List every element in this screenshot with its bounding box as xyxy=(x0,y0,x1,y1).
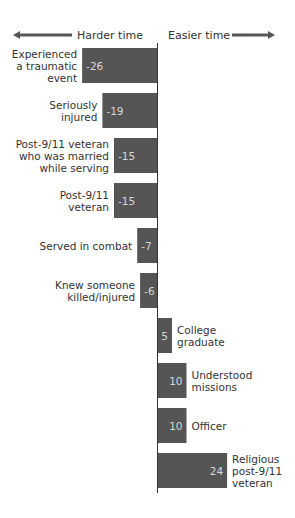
category-label-line: College xyxy=(177,324,216,336)
direction-header: Harder time Easier time xyxy=(13,29,275,42)
bar-group: 5Collegegraduate xyxy=(158,318,225,353)
category-label-line: veteran xyxy=(232,477,273,489)
category-label: Knew someonekilled/injured xyxy=(55,279,135,303)
bar-group: 10Understoodmissions xyxy=(158,363,253,398)
category-label: Collegegraduate xyxy=(177,324,225,348)
category-label-line: Understood xyxy=(192,369,253,381)
category-label-line: killed/injured xyxy=(67,291,135,303)
category-label: Religiouspost-9/11veteran xyxy=(232,453,282,489)
bar-value-label: 24 xyxy=(210,465,224,477)
bar-value-label: -19 xyxy=(106,105,123,117)
easier-time-label: Easier time xyxy=(168,29,230,42)
left-arrow-icon xyxy=(13,31,72,39)
category-label: Officer xyxy=(192,420,228,432)
category-label-line: missions xyxy=(192,381,238,393)
bar-value-label: -6 xyxy=(144,285,155,297)
category-label-line: Knew someone xyxy=(55,279,135,291)
bar-group: -15Post-9/11veteran xyxy=(60,183,158,218)
category-label: Served in combat xyxy=(40,240,133,252)
bar-group: 24Religiouspost-9/11veteran xyxy=(158,453,283,489)
harder-time-label: Harder time xyxy=(77,29,143,42)
bar-group: -7Served in combat xyxy=(40,228,158,263)
bar-value-label: -26 xyxy=(86,60,103,72)
category-label-line: Officer xyxy=(192,420,228,432)
right-arrow-icon xyxy=(232,31,275,39)
category-label: Post-9/11veteran xyxy=(60,189,109,213)
bar-value-label: 5 xyxy=(161,330,168,342)
bar-group: 10Officer xyxy=(158,408,228,443)
category-label-line: injured xyxy=(61,111,97,123)
bar-value-label: -15 xyxy=(118,150,135,162)
category-label-line: Religious xyxy=(232,453,279,465)
bar-value-label: 10 xyxy=(169,375,182,387)
category-label-line: a traumatic xyxy=(16,60,77,72)
category-label: Post-9/11 veteranwho was marriedwhile se… xyxy=(16,138,109,174)
category-label-line: Experienced xyxy=(12,48,77,60)
bar-group: -6Knew someonekilled/injured xyxy=(55,273,157,308)
category-label-line: event xyxy=(47,72,77,84)
bar-value-label: -7 xyxy=(141,240,151,252)
bars: -26Experienceda traumaticevent-19Serious… xyxy=(12,48,282,489)
category-label-line: Post-9/11 veteran xyxy=(16,138,109,150)
category-label-line: Seriously xyxy=(49,99,97,111)
bar-group: -26Experienceda traumaticevent xyxy=(12,48,158,84)
category-label-line: post-9/11 xyxy=(232,465,282,477)
category-label: Experienceda traumaticevent xyxy=(12,48,77,84)
category-label: Understoodmissions xyxy=(192,369,253,393)
category-label-line: while serving xyxy=(39,162,109,174)
category-label: Seriouslyinjured xyxy=(49,99,97,123)
bar-value-label: 10 xyxy=(169,420,182,432)
category-label-line: graduate xyxy=(177,336,225,348)
category-label-line: who was married xyxy=(19,150,109,162)
bar-group: -19Seriouslyinjured xyxy=(49,93,157,128)
category-label-line: Served in combat xyxy=(40,240,133,252)
bar-value-label: -15 xyxy=(118,195,135,207)
category-label-line: Post-9/11 xyxy=(60,189,109,201)
chart: Harder time Easier time -26Experienceda … xyxy=(0,0,295,518)
category-label-line: veteran xyxy=(68,201,109,213)
bar-group: -15Post-9/11 veteranwho was marriedwhile… xyxy=(16,138,158,174)
